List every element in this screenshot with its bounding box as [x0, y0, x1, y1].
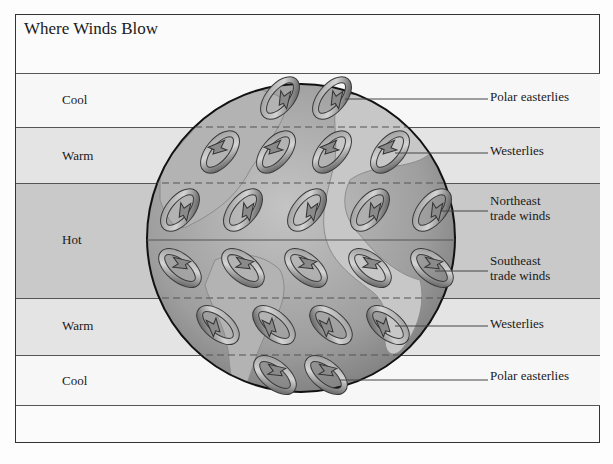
label-northeast-trade-winds: Northeast trade winds [490, 193, 550, 223]
label-westerlies-south: Westerlies [490, 316, 544, 331]
label-se-line1: Southeast [490, 253, 550, 268]
globe [147, 84, 455, 400]
label-ne-line1: Northeast [490, 193, 550, 208]
label-polar-easterlies-north: Polar easterlies [490, 89, 569, 104]
label-westerlies-north: Westerlies [490, 143, 544, 158]
label-polar-easterlies-south: Polar easterlies [490, 368, 569, 383]
label-se-line2: trade winds [490, 268, 550, 283]
label-southeast-trade-winds: Southeast trade winds [490, 253, 550, 283]
globe-illustration [0, 0, 613, 464]
label-ne-line2: trade winds [490, 208, 550, 223]
